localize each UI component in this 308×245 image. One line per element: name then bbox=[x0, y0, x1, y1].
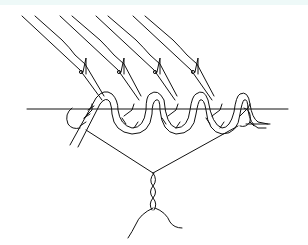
twisted-stem bbox=[128, 173, 182, 238]
left-loop bbox=[67, 108, 80, 129]
hook-lines bbox=[22, 16, 214, 100]
left-bridle bbox=[86, 130, 153, 173]
right-bridle bbox=[153, 126, 238, 173]
illustration bbox=[0, 0, 308, 245]
